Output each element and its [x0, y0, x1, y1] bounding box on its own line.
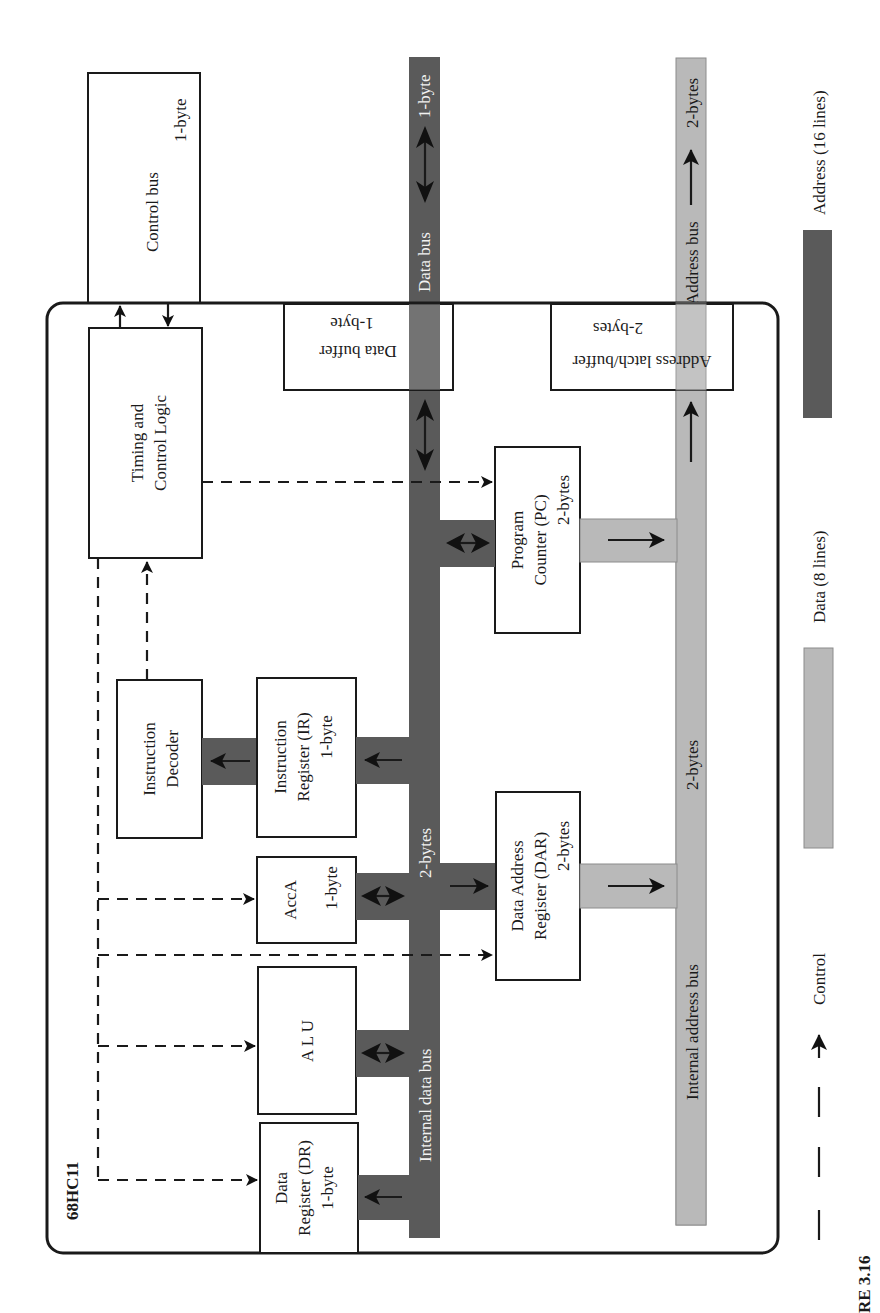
internal-data-bus-label: Internal data bus — [416, 1049, 435, 1162]
figure-caption: RE 3.16 — [855, 1255, 874, 1313]
acca-label: AccA — [281, 879, 300, 919]
address-latch-box: Address latch/buffer 2-bytes — [551, 304, 733, 390]
internal-data-bus-width: 2-bytes — [416, 828, 435, 878]
control-bus-label: Control bus — [143, 172, 162, 252]
data-buffer-box: Data buffer 1-byte — [284, 304, 453, 390]
dr-label-3: 1-byte — [318, 1166, 337, 1209]
address-latch-label: Address latch/buffer — [572, 352, 711, 371]
pc-label-1: Program — [508, 511, 527, 570]
ir-label-1: Instruction — [271, 720, 290, 794]
pc-label-2: Counter (PC) — [531, 494, 550, 585]
alu-box: A L U — [258, 967, 356, 1114]
address-bus-width: 2-bytes — [683, 78, 702, 128]
instruction-register-box: Instruction Register (IR) 1-byte — [257, 678, 356, 837]
legend-data-swatch — [804, 648, 833, 848]
legend-control-label: Control — [810, 953, 829, 1005]
control-bus-width: 1-byte — [171, 99, 190, 142]
legend: Control Data (8 lines) Address (16 lines… — [803, 90, 833, 1240]
data-bus-label: Data bus — [415, 232, 434, 292]
dr-label-2: Register (DR) — [295, 1140, 314, 1236]
timing-control-box: Timing and Control Logic — [89, 328, 202, 558]
data-buffer-width: 1-byte — [330, 314, 373, 333]
dar-box: Data Address Register (DAR) 2-bytes — [496, 792, 580, 980]
decoder-label-2: Decoder — [163, 730, 182, 788]
address-latch-width: 2-bytes — [593, 319, 643, 338]
diagram-canvas: Control bus 1-byte Data bus 1-byte Addre… — [0, 0, 880, 1313]
ir-label-3: 1-byte — [317, 715, 336, 758]
decoder-label-1: Instruction — [140, 722, 159, 796]
chip-label: 68HC11 — [63, 1161, 82, 1220]
legend-data: Data (8 lines) — [804, 530, 833, 848]
data-bus-width: 1-byte — [415, 75, 434, 118]
ir-label-2: Register (IR) — [294, 712, 313, 801]
legend-address: Address (16 lines) — [803, 90, 832, 418]
instruction-decoder-box: Instruction Decoder — [117, 680, 202, 838]
dar-label-3: 2-bytes — [554, 821, 573, 871]
acca-box: AccA 1-byte — [257, 857, 356, 943]
legend-address-label: Address (16 lines) — [810, 90, 829, 215]
data-buffer-label: Data buffer — [319, 342, 397, 361]
legend-address-swatch — [803, 230, 832, 418]
internal-address-bus-width: 2-bytes — [683, 740, 702, 790]
alu-label: A L U — [298, 1020, 317, 1062]
internal-address-bus-label: Internal address bus — [683, 964, 702, 1100]
dr-label-1: Data — [272, 1172, 291, 1205]
control-bus-box: Control bus 1-byte — [88, 73, 200, 303]
timing-label-2: Control Logic — [151, 395, 170, 491]
address-bus-label: Address bus — [683, 221, 702, 305]
dar-label-1: Data Address — [508, 840, 527, 931]
dar-label-2: Register (DAR) — [531, 832, 550, 940]
timing-label-1: Timing and — [128, 403, 147, 482]
program-counter-box: Program Counter (PC) 2-bytes — [495, 447, 580, 633]
acca-width: 1-byte — [322, 866, 341, 909]
pc-label-3: 2-bytes — [554, 475, 573, 525]
data-register-box: Data Register (DR) 1-byte — [260, 1123, 358, 1253]
legend-data-label: Data (8 lines) — [810, 530, 829, 623]
legend-control: Control — [810, 953, 829, 1240]
